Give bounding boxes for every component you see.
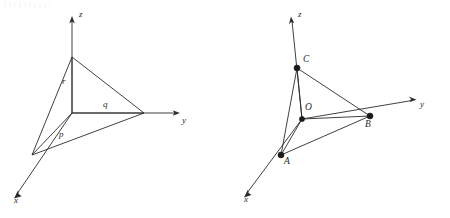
left-y-axis-label: y (182, 116, 186, 125)
right-x-axis (244, 119, 302, 198)
left-segment-p (32, 113, 72, 155)
point-o-dot (299, 116, 304, 121)
diagram-canvas (0, 0, 450, 218)
point-c-dot (294, 65, 300, 71)
point-a-label: A (284, 157, 290, 167)
figure-root: z y x r q p z y x C A B O (0, 0, 450, 218)
left-intercept-triangle (32, 57, 144, 155)
left-label-p: p (59, 130, 64, 139)
right-segment-oc (297, 68, 302, 119)
point-b-label: B (365, 120, 371, 130)
right-triangle-abc (281, 68, 370, 155)
left-label-q: q (103, 100, 108, 109)
point-o-label: O (305, 103, 312, 113)
right-z-axis-label: z (298, 10, 302, 19)
left-label-r: r (62, 77, 66, 86)
right-panel (244, 17, 417, 198)
left-z-axis-label: z (79, 10, 83, 19)
left-x-axis (14, 113, 72, 199)
right-y-axis-label: y (420, 100, 424, 109)
left-x-axis-label: x (14, 196, 18, 205)
right-y-axis (302, 96, 417, 119)
right-x-axis-label: x (244, 195, 248, 204)
left-panel (14, 16, 180, 199)
point-c-label: C (303, 55, 309, 65)
